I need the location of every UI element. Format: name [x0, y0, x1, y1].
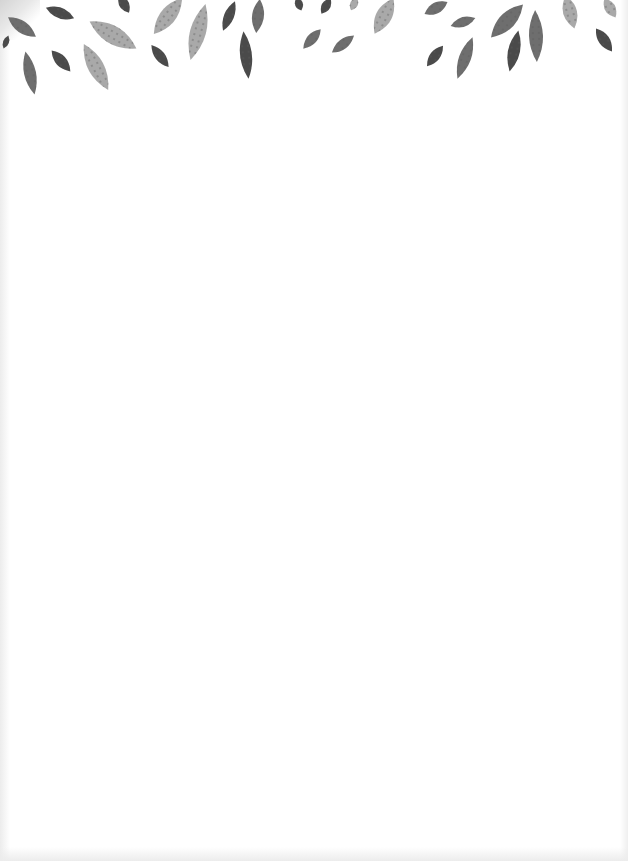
- falling-leaves-border: [0, 0, 628, 110]
- leaf-icon: [44, 3, 76, 24]
- leaf-icon: [48, 47, 75, 75]
- leaf-icon: [329, 31, 357, 56]
- leaf-icon: [115, 0, 134, 15]
- leaf-icon: [20, 50, 41, 96]
- leaf-icon: [485, 0, 528, 43]
- leaf-icon: [422, 0, 450, 19]
- leaf-icon: [85, 14, 141, 57]
- leaf-icon: [5, 12, 40, 41]
- leaf-icon: [347, 0, 360, 12]
- leaf-icon: [1, 34, 11, 49]
- leaf-icon: [218, 0, 239, 33]
- leaf-icon: [183, 2, 213, 62]
- leaf-icon: [591, 25, 616, 54]
- leaf-icon: [449, 13, 477, 31]
- leaf-icon: [300, 26, 325, 52]
- leaf-icon: [504, 29, 524, 73]
- leaf-icon: [368, 0, 401, 37]
- leaf-icon: [318, 0, 335, 16]
- leaf-icon: [600, 0, 621, 20]
- leaf-icon: [77, 40, 116, 93]
- leaf-icon: [452, 35, 478, 80]
- page-right-edge: [620, 0, 628, 861]
- leaf-icon: [250, 0, 265, 34]
- leaf-icon: [528, 10, 544, 62]
- leaf-icon: [559, 0, 581, 30]
- page-left-edge: [0, 40, 10, 861]
- leaf-icon: [148, 0, 189, 39]
- leaf-icon: [293, 0, 305, 12]
- leaf-icon: [147, 42, 172, 70]
- leaf-icon: [238, 31, 255, 80]
- page-bottom-edge: [0, 847, 628, 861]
- leaf-icon: [423, 43, 447, 70]
- stationery-page: [0, 0, 628, 861]
